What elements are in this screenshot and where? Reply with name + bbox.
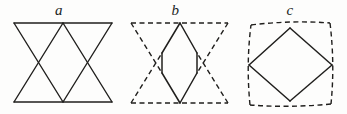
- figure-label-c: c: [233, 0, 347, 20]
- figure-c-quad-bottom-edge: [250, 104, 331, 106]
- figure-c-diamond-bottom-left: [249, 65, 290, 101]
- figure-b-lower-tri-left: [131, 53, 162, 103]
- figure-b-rhombus-upper-right: [180, 23, 197, 53]
- figure-drawing-a: [0, 18, 118, 114]
- figure-c-quad-top-edge: [251, 22, 330, 25]
- figure-b-rhombus-upper-left: [162, 23, 180, 53]
- figure-panel-c: c: [233, 0, 347, 114]
- figure-plate: a b: [0, 0, 347, 114]
- figure-panel-a: a: [0, 0, 118, 114]
- figure-c-diamond-top-right: [290, 28, 332, 65]
- figure-label-a: a: [0, 0, 118, 20]
- figure-drawing-b: [118, 18, 233, 114]
- figure-b-rhombus-lower-left: [162, 73, 180, 103]
- figure-c-diamond-top-left: [249, 28, 290, 65]
- figure-b-upper-tri-right: [197, 23, 228, 73]
- figure-c-diamond-bottom-right: [290, 65, 332, 101]
- figure-panel-b: b: [118, 0, 233, 114]
- figure-drawing-c: [233, 18, 347, 114]
- figure-label-b: b: [118, 0, 233, 20]
- figure-b-upper-tri-left: [131, 23, 162, 73]
- figure-b-lower-tri-right: [197, 53, 228, 103]
- figure-b-rhombus-lower-right: [180, 73, 197, 103]
